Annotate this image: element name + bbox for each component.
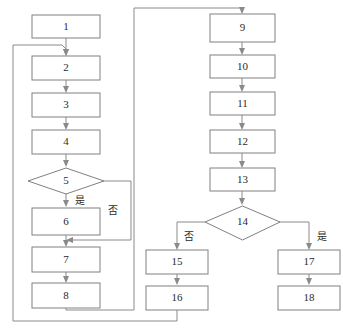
edge-14-to-17-yes-arrowhead — [306, 243, 312, 250]
edge-5-to-6-arrowhead — [63, 200, 69, 207]
edge-16-to-2-loopback-arrowhead — [63, 49, 69, 56]
node-11-label: 11 — [237, 97, 248, 109]
node-14-label: 14 — [237, 215, 249, 227]
node-17-label: 17 — [304, 255, 316, 267]
node-3[interactable]: 3 — [32, 93, 100, 117]
node-3-label: 3 — [63, 98, 69, 110]
edge-15-to-16-arrowhead — [174, 278, 180, 285]
edge-label-decision-5-no: 否 — [108, 205, 118, 216]
edge-label-layer: 是 否 否 是 — [75, 195, 327, 242]
edge-7-to-8-arrowhead — [63, 276, 69, 283]
edge-label-decision-14-yes: 是 — [317, 231, 327, 242]
node-5-label: 5 — [63, 174, 69, 186]
node-18-label: 18 — [304, 291, 316, 303]
node-6-label: 6 — [63, 215, 69, 227]
node-12-label: 12 — [237, 135, 248, 147]
node-14[interactable]: 14 — [205, 206, 280, 240]
node-5[interactable]: 5 — [28, 168, 104, 194]
edge-label-decision-14-no: 否 — [184, 231, 194, 242]
node-8-label: 8 — [63, 289, 69, 301]
node-7[interactable]: 7 — [32, 247, 100, 272]
node-1[interactable]: 1 — [32, 15, 100, 38]
node-10-label: 10 — [237, 60, 249, 72]
node-13[interactable]: 13 — [210, 168, 275, 191]
edge-6-to-7-arrowhead — [63, 240, 69, 247]
edge-4-to-5-arrowhead — [63, 160, 69, 167]
node-8[interactable]: 8 — [32, 283, 100, 308]
node-10[interactable]: 10 — [210, 55, 275, 78]
node-11[interactable]: 11 — [210, 92, 275, 115]
node-13-label: 13 — [237, 173, 249, 185]
edge-14-to-17-yes — [280, 222, 309, 246]
edge-13-to-14-arrowhead — [239, 198, 245, 205]
edge-3-to-4-arrowhead — [63, 123, 69, 130]
node-17[interactable]: 17 — [278, 250, 340, 274]
edge-17-to-18-arrowhead — [306, 278, 312, 285]
node-18[interactable]: 18 — [278, 286, 340, 310]
node-6[interactable]: 6 — [32, 208, 100, 235]
flowchart-canvas: 1 2 3 4 5 6 7 — [0, 0, 343, 331]
node-2[interactable]: 2 — [32, 56, 100, 80]
node-2-label: 2 — [63, 61, 69, 73]
edge-14-to-15-no-arrowhead — [174, 243, 180, 250]
node-layer: 1 2 3 4 5 6 7 — [28, 14, 340, 310]
node-9[interactable]: 9 — [210, 14, 275, 42]
node-9-label: 9 — [240, 21, 246, 33]
edge-11-to-12-arrowhead — [239, 123, 245, 130]
node-12[interactable]: 12 — [210, 130, 275, 153]
node-16[interactable]: 16 — [146, 286, 208, 310]
edge-label-decision-5-yes: 是 — [75, 195, 85, 206]
node-1-label: 1 — [63, 20, 69, 32]
node-4[interactable]: 4 — [32, 130, 100, 154]
flowchart-diagram: 1 2 3 4 5 6 7 — [0, 0, 343, 331]
edge-9-to-10-arrowhead — [239, 48, 245, 55]
edge-10-to-11-arrowhead — [239, 85, 245, 92]
node-15[interactable]: 15 — [146, 250, 208, 274]
edge-8-to-9-arrowhead — [239, 7, 245, 14]
node-4-label: 4 — [63, 135, 69, 147]
edge-12-to-13-arrowhead — [239, 161, 245, 168]
edge-2-to-3-arrowhead — [63, 86, 69, 93]
node-16-label: 16 — [172, 291, 184, 303]
node-7-label: 7 — [63, 253, 69, 265]
node-15-label: 15 — [172, 255, 184, 267]
